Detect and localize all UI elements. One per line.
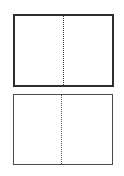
top-panel-right-section xyxy=(63,16,112,85)
top-panel xyxy=(13,14,114,87)
bottom-panel xyxy=(13,94,113,165)
top-panel-left-section xyxy=(15,16,63,85)
bottom-panel-left-section xyxy=(14,95,61,164)
bottom-panel-right-section xyxy=(62,95,112,164)
